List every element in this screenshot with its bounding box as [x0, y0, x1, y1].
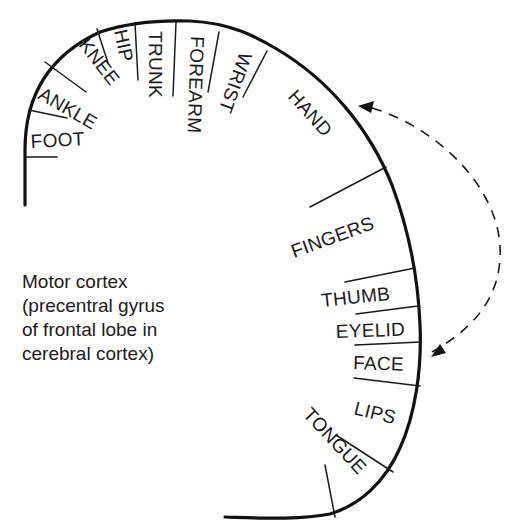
label-fingers: FINGERS	[288, 212, 377, 261]
label-thumb: THUMB	[320, 283, 391, 311]
motor-cortex-diagram: FOOT ANKLE KNEE HIP TRUNK FOREARM WRIST …	[0, 0, 508, 528]
label-foot: FOOT	[30, 128, 85, 152]
caption-line-2: (precentral gyrus	[22, 294, 165, 318]
label-eyelid: EYELID	[335, 319, 405, 342]
label-trunk: TRUNK	[145, 31, 166, 98]
motor-cortex-caption: Motor cortex (precentral gyrus of fronta…	[22, 270, 165, 366]
arrowhead-top-icon	[358, 101, 374, 113]
divider-thumb-eyelid	[356, 306, 418, 314]
label-lips: LIPS	[352, 398, 398, 429]
divider-tongue-bottom	[325, 465, 335, 517]
label-forearm: FOREARM	[184, 36, 208, 134]
label-face: FACE	[353, 352, 405, 375]
divider-hand-fingers	[310, 167, 386, 207]
divider-trunk-forearm	[173, 22, 176, 96]
caption-line-4: cerebral cortex)	[22, 342, 165, 366]
divider-forearm-wrist	[208, 32, 219, 92]
dashed-arc	[372, 108, 500, 352]
caption-line-3: of frontal lobe in	[22, 318, 165, 342]
label-hip: HIP	[110, 27, 137, 63]
divider-face-lips	[354, 378, 420, 386]
divider-fingers-thumb	[345, 268, 415, 282]
label-hand: HAND	[284, 86, 336, 141]
caption-line-1: Motor cortex	[22, 270, 165, 294]
region-labels: FOOT ANKLE KNEE HIP TRUNK FOREARM WRIST …	[30, 27, 405, 478]
label-ankle: ANKLE	[35, 83, 101, 133]
divider-eyelid-face	[355, 342, 421, 345]
